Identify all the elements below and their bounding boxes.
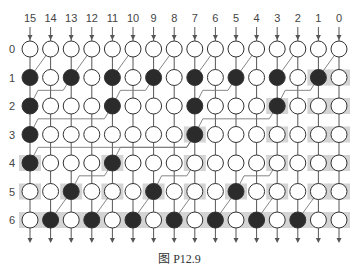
white-node (290, 41, 306, 57)
white-node (146, 127, 162, 143)
black-node (207, 212, 223, 228)
output-arrow-icon (151, 238, 156, 243)
white-node (125, 184, 141, 200)
black-node (249, 212, 265, 228)
white-node (125, 41, 141, 57)
black-node (43, 212, 59, 228)
output-arrow-icon (131, 238, 136, 243)
input-arrow-icon (110, 35, 115, 40)
white-node (187, 155, 203, 171)
white-node (310, 184, 326, 200)
column-label: 3 (274, 12, 280, 24)
column-label: 6 (212, 12, 218, 24)
white-node (249, 127, 265, 143)
white-node (63, 127, 79, 143)
white-node (269, 212, 285, 228)
white-node (228, 212, 244, 228)
input-arrow-icon (151, 35, 156, 40)
white-node (146, 98, 162, 114)
output-arrow-icon (172, 238, 177, 243)
column-label: 5 (233, 12, 239, 24)
input-arrow-icon (172, 35, 177, 40)
white-node (269, 41, 285, 57)
white-node (290, 70, 306, 86)
white-node (166, 155, 182, 171)
white-node (290, 127, 306, 143)
output-arrow-icon (316, 238, 321, 243)
white-node (84, 184, 100, 200)
output-arrow-icon (48, 238, 53, 243)
black-node (228, 184, 244, 200)
white-node (331, 155, 347, 171)
white-node (310, 98, 326, 114)
white-node (331, 212, 347, 228)
black-node (63, 70, 79, 86)
black-node (22, 127, 38, 143)
black-node (63, 184, 79, 200)
white-node (310, 155, 326, 171)
white-node (22, 212, 38, 228)
white-node (104, 212, 120, 228)
white-node (166, 127, 182, 143)
white-node (84, 41, 100, 57)
column-label: 2 (295, 12, 301, 24)
black-node (290, 212, 306, 228)
input-arrow-icon (337, 35, 342, 40)
row-label: 5 (9, 186, 15, 198)
white-node (249, 70, 265, 86)
white-node (187, 41, 203, 57)
column-label: 9 (151, 12, 157, 24)
white-node (166, 41, 182, 57)
black-node (269, 70, 285, 86)
white-node (166, 184, 182, 200)
white-node (104, 41, 120, 57)
white-node (84, 98, 100, 114)
column-label: 1 (315, 12, 321, 24)
column-label: 13 (65, 12, 77, 24)
column-label: 10 (127, 12, 139, 24)
white-node (249, 184, 265, 200)
white-node (104, 184, 120, 200)
input-arrow-icon (131, 35, 136, 40)
white-node (207, 41, 223, 57)
black-node (104, 70, 120, 86)
white-node (207, 155, 223, 171)
white-node (84, 155, 100, 171)
column-label: 7 (192, 12, 198, 24)
white-node (331, 70, 347, 86)
white-node (331, 41, 347, 57)
white-node (310, 127, 326, 143)
white-node (125, 98, 141, 114)
black-node (187, 127, 203, 143)
input-arrow-icon (254, 35, 259, 40)
white-node (290, 98, 306, 114)
white-node (43, 127, 59, 143)
white-node (125, 155, 141, 171)
white-node (43, 155, 59, 171)
black-node (166, 212, 182, 228)
white-node (84, 70, 100, 86)
white-node (166, 70, 182, 86)
input-arrow-icon (69, 35, 74, 40)
white-node (22, 41, 38, 57)
white-node (249, 98, 265, 114)
white-node (146, 41, 162, 57)
black-node (187, 98, 203, 114)
input-arrow-icon (192, 35, 197, 40)
white-node (310, 41, 326, 57)
white-node (43, 70, 59, 86)
white-node (43, 41, 59, 57)
output-arrow-icon (234, 238, 239, 243)
white-node (269, 155, 285, 171)
black-node (22, 98, 38, 114)
white-node (125, 127, 141, 143)
input-arrow-icon (275, 35, 280, 40)
white-node (63, 212, 79, 228)
row-label: 6 (9, 214, 15, 226)
white-node (146, 212, 162, 228)
white-node (228, 127, 244, 143)
input-arrow-icon (234, 35, 239, 40)
output-arrow-icon (28, 238, 33, 243)
white-node (146, 155, 162, 171)
output-arrow-icon (192, 238, 197, 243)
